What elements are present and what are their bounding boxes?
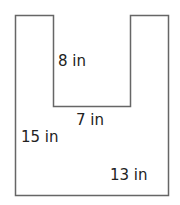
notch-width-label: 7 in (76, 113, 104, 128)
outer-height-label: 15 in (21, 130, 59, 145)
u-shape-figure (0, 0, 180, 205)
outer-width-label: 13 in (110, 168, 148, 183)
notch-height-label: 8 in (58, 54, 86, 69)
